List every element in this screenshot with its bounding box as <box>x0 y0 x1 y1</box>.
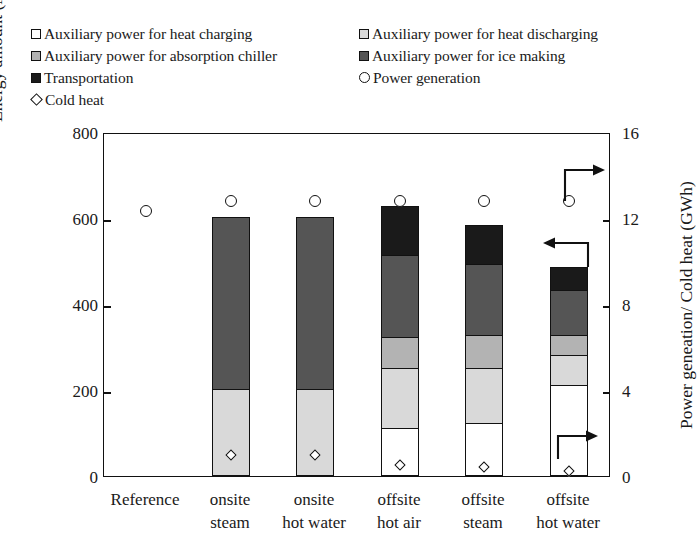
square-mid-gray-icon <box>31 51 41 61</box>
y2-tick-12: 12 <box>622 211 662 228</box>
y2-tick-0: 0 <box>622 469 662 486</box>
y-tick-400: 400 <box>38 297 98 314</box>
legend-label: Power generation <box>373 70 480 86</box>
y2-tick-16: 16 <box>622 125 662 142</box>
y-tick-600: 600 <box>38 211 98 228</box>
arrow-to-left-axis-icon <box>541 234 601 268</box>
y2-tick-8: 8 <box>622 297 662 314</box>
cold-heat-marker <box>478 461 489 472</box>
legend-label: Auxiliary power for absorption chiller <box>44 48 277 64</box>
markers-layer <box>104 134 609 476</box>
legend-item-heat-charging: Auxiliary power for heat charging <box>31 26 252 42</box>
power-generation-marker <box>140 205 152 217</box>
y2-tick-4: 4 <box>622 383 662 400</box>
circle-open-icon <box>359 72 370 83</box>
square-black-icon <box>31 73 41 83</box>
legend-item-absorption-chiller: Auxiliary power for absorption chiller <box>31 48 277 64</box>
legend-label: Transportation <box>44 70 133 86</box>
y-tick-200: 200 <box>38 383 98 400</box>
cold-heat-marker <box>394 459 405 470</box>
power-generation-marker <box>478 195 490 207</box>
power-generation-marker <box>309 195 321 207</box>
x-axis-label-offsite-hot-water: offsitehot water <box>508 488 628 534</box>
power-generation-marker <box>225 195 237 207</box>
legend-item-heat-discharging: Auxiliary power for heat discharging <box>359 26 598 42</box>
arrow-to-right-axis-top-icon <box>551 158 607 202</box>
legend-label: Auxiliary power for ice making <box>372 48 565 64</box>
x-axis-label-line: hot water <box>508 511 628 534</box>
cold-heat-marker <box>225 450 236 461</box>
legend-label: Cold heat <box>45 92 104 108</box>
square-white-icon <box>31 29 41 39</box>
legend-item-cold-heat: Cold heat <box>31 92 104 108</box>
square-dark-gray-icon <box>359 51 369 61</box>
chart-legend: Auxiliary power for heat charging Auxili… <box>0 0 692 108</box>
legend-item-ice-making: Auxiliary power for ice making <box>359 48 565 64</box>
y-axis-left-title: Energy amount (MWh) <box>0 0 7 190</box>
y-axis-right-title: Power geneation/ Cold heat (GWh) <box>676 140 697 470</box>
y-tick-800: 800 <box>38 125 98 142</box>
plot-area <box>103 133 610 477</box>
legend-item-transportation: Transportation <box>31 70 133 86</box>
diamond-open-icon <box>31 94 42 105</box>
x-axis-label-line: offsite <box>508 488 628 511</box>
legend-item-power-generation: Power generation <box>359 70 480 86</box>
legend-label: Auxiliary power for heat charging <box>44 26 252 42</box>
square-light-gray-icon <box>359 29 369 39</box>
cold-heat-marker <box>563 465 574 476</box>
y-tick-0: 0 <box>38 469 98 486</box>
legend-label: Auxiliary power for heat discharging <box>372 26 598 42</box>
cold-heat-marker <box>309 450 320 461</box>
power-generation-marker <box>394 195 406 207</box>
arrow-to-right-axis-bottom-icon <box>544 424 600 460</box>
